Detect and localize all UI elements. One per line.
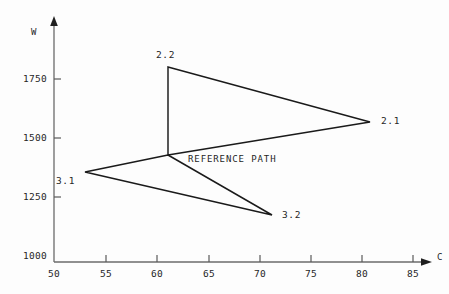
x-tick-label-85: 85 [401, 269, 425, 279]
y-tick-label-1500: 1500 [13, 133, 47, 143]
point-label-3-1: 3.1 [56, 176, 75, 186]
reference-path-annotation: REFERENCE PATH [188, 155, 276, 164]
axis-group [50, 16, 432, 266]
x-axis-label: C [437, 253, 443, 262]
x-tick-label-80: 80 [350, 269, 374, 279]
chart-figure: W C 1750 1500 1250 1000 50 55 60 65 70 7… [0, 0, 449, 294]
x-tick-marks [106, 255, 413, 262]
path-series-3 [85, 155, 272, 215]
y-axis-arrowhead [50, 16, 58, 26]
y-tick-label-1000: 1000 [13, 251, 47, 261]
point-label-3-2: 3.2 [282, 210, 301, 220]
plot-canvas [0, 0, 449, 294]
y-tick-label-1250: 1250 [13, 192, 47, 202]
x-axis-arrowhead [421, 258, 432, 266]
x-tick-label-60: 60 [145, 269, 169, 279]
x-tick-label-50: 50 [42, 269, 66, 279]
path-series-2 [168, 67, 370, 155]
data-paths [85, 67, 370, 215]
x-tick-label-70: 70 [248, 269, 272, 279]
x-tick-label-75: 75 [299, 269, 323, 279]
point-label-2-2: 2.2 [156, 50, 175, 60]
y-axis-label: W [31, 28, 37, 37]
point-label-2-1: 2.1 [381, 116, 400, 126]
y-tick-label-1750: 1750 [13, 74, 47, 84]
x-tick-label-65: 65 [197, 269, 221, 279]
x-tick-label-55: 55 [94, 269, 118, 279]
